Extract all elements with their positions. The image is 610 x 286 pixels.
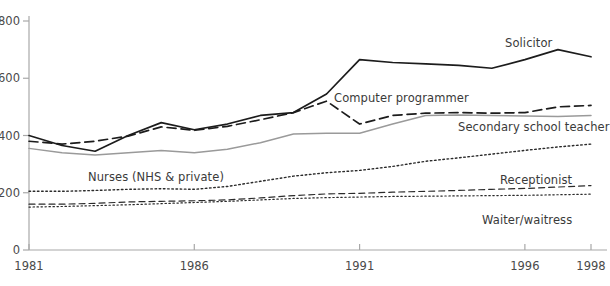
series-line-4 bbox=[29, 186, 591, 205]
x-axis-tick-label: 1986 bbox=[180, 259, 209, 273]
y-axis-tick-label: 0 bbox=[13, 243, 20, 257]
series-label-0: Solicitor bbox=[505, 36, 552, 50]
y-axis-tick-label: 800 bbox=[0, 14, 20, 28]
series-line-5 bbox=[29, 194, 591, 207]
y-axis-tick-label: 200 bbox=[0, 186, 20, 200]
series-label-4: Receptionist bbox=[500, 173, 572, 187]
series-label-3: Nurses (NHS & private) bbox=[88, 170, 224, 184]
x-axis-tick-label: 1998 bbox=[576, 259, 605, 273]
series-line-0 bbox=[29, 50, 591, 152]
x-axis-tick-label: 1996 bbox=[510, 259, 539, 273]
x-axis-tick-label: 1981 bbox=[14, 259, 43, 273]
series-label-5: Waiter/waitress bbox=[482, 213, 572, 227]
series-label-1: Computer programmer bbox=[334, 91, 469, 105]
y-axis-tick-label: 400 bbox=[0, 129, 20, 143]
series-label-2: Secondary school teacher bbox=[458, 120, 610, 134]
x-axis-tick-label: 1991 bbox=[345, 259, 374, 273]
y-axis-tick-label: 600 bbox=[0, 71, 20, 85]
